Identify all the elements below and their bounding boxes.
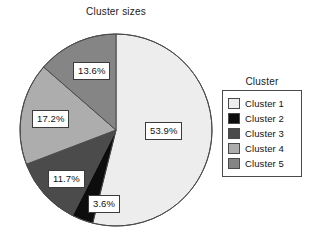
legend-swatch-icon — [228, 158, 240, 169]
slice-label-cluster-3: 11.7% — [48, 170, 85, 188]
legend-item-cluster-1[interactable]: Cluster 1 — [228, 96, 297, 111]
legend-item-label: Cluster 3 — [245, 128, 284, 139]
legend: Cluster Cluster 1 Cluster 2 Cluster 3 Cl… — [222, 76, 302, 177]
slice-label-cluster-4: 17.2% — [32, 110, 69, 128]
legend-swatch-icon — [228, 113, 240, 124]
slice-label-cluster-5: 13.6% — [73, 62, 110, 80]
legend-item-label: Cluster 5 — [245, 158, 284, 169]
legend-swatch-icon — [228, 143, 240, 154]
pie-plot-area: 53.9% 13.6% 17.2% 11.7% 3.6% — [18, 32, 214, 228]
legend-swatch-icon — [228, 98, 240, 109]
pie-chart-figure: Cluster sizes 53.9% 13.6% 17.2% 11.7% 3.… — [0, 0, 310, 246]
legend-box: Cluster 1 Cluster 2 Cluster 3 Cluster 4 … — [222, 90, 302, 177]
legend-item-label: Cluster 2 — [245, 113, 284, 124]
slice-label-cluster-1: 53.9% — [145, 122, 182, 140]
legend-item-cluster-2[interactable]: Cluster 2 — [228, 111, 297, 126]
legend-item-cluster-5[interactable]: Cluster 5 — [228, 156, 297, 171]
slice-label-cluster-2: 3.6% — [88, 195, 120, 213]
legend-item-label: Cluster 1 — [245, 98, 284, 109]
legend-title: Cluster — [222, 76, 302, 87]
legend-item-cluster-4[interactable]: Cluster 4 — [228, 141, 297, 156]
legend-item-cluster-3[interactable]: Cluster 3 — [228, 126, 297, 141]
chart-title: Cluster sizes — [0, 6, 232, 17]
legend-swatch-icon — [228, 128, 240, 139]
legend-item-label: Cluster 4 — [245, 143, 284, 154]
